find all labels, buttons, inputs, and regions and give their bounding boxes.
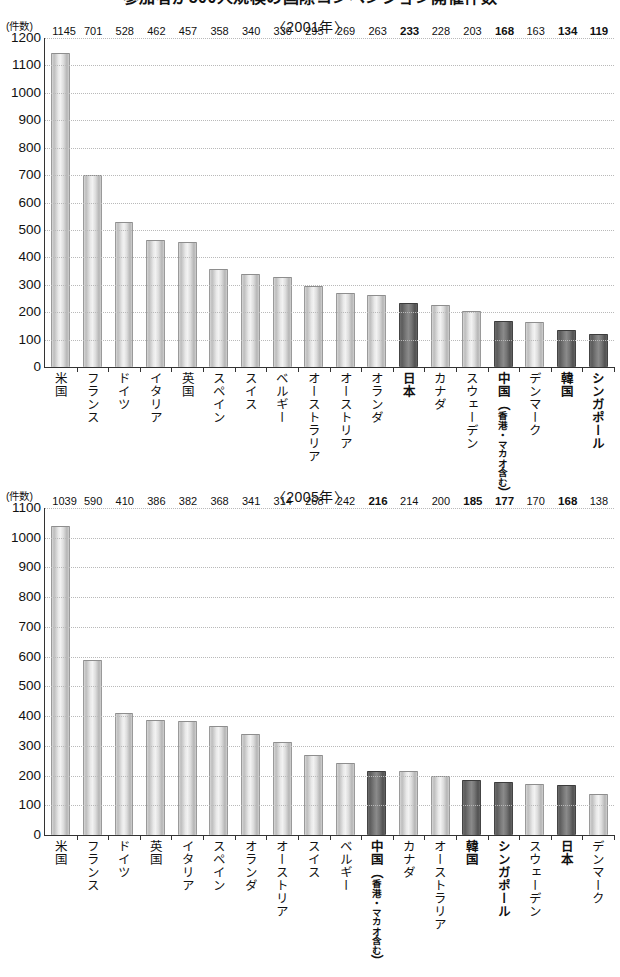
x-axis-category-label: スウェーデン	[464, 372, 477, 450]
bar-value-label: 1145	[52, 26, 76, 37]
bar-slot[interactable]: 1039	[51, 508, 70, 835]
bar-value-label: 200	[432, 496, 450, 507]
x-axis-category-label: デンマーク	[590, 840, 603, 905]
bar[interactable]: 1039	[51, 526, 70, 835]
bar-highlighted[interactable]: 168	[557, 785, 576, 835]
bar-slot[interactable]: 410	[115, 508, 134, 835]
x-axis-category-label: スイス	[306, 840, 319, 879]
bar-slot[interactable]: 341	[241, 508, 260, 835]
bar[interactable]: 170	[525, 784, 544, 835]
y-axis-tick-label: 400	[18, 709, 41, 723]
bar-value-label: 528	[116, 26, 134, 37]
x-axis-category-label: スペイン	[211, 372, 224, 424]
bar-slot[interactable]: 268	[304, 508, 323, 835]
bar-slot[interactable]: 170	[525, 508, 544, 835]
bar[interactable]: 410	[115, 713, 134, 835]
bar-slot[interactable]: 168	[557, 508, 576, 835]
bar-slot[interactable]: 590	[83, 508, 102, 835]
bar[interactable]: 295	[304, 286, 323, 367]
bar[interactable]: 457	[178, 242, 197, 367]
y-axis-tick-label: 900	[18, 114, 41, 128]
y-axis-tick-label: 1100	[12, 501, 41, 515]
x-axis-category-label: デンマーク	[527, 372, 540, 437]
bar[interactable]: 701	[83, 175, 102, 367]
bar[interactable]: 163	[525, 322, 544, 367]
bar[interactable]: 340	[241, 274, 260, 367]
x-axis-category-label: シンガポール	[495, 840, 508, 918]
bar-slot[interactable]: 382	[178, 508, 197, 835]
bar-highlighted[interactable]: 185	[462, 780, 481, 835]
x-axis-category-label: スペイン	[211, 840, 224, 892]
gridline	[45, 65, 614, 66]
bar[interactable]: 214	[399, 771, 418, 835]
bar-slot[interactable]: 200	[431, 508, 450, 835]
bar[interactable]: 386	[146, 720, 165, 835]
bar-value-label: 185	[463, 496, 482, 507]
bar[interactable]: 263	[367, 295, 386, 367]
y-axis-tick-label: 400	[18, 251, 41, 265]
bar-slot[interactable]: 386	[146, 508, 165, 835]
y-axis-tick-label: 300	[18, 278, 41, 292]
bar-slot[interactable]: 214	[399, 508, 418, 835]
bar-slot[interactable]: 368	[209, 508, 228, 835]
bar-slot[interactable]: 138	[589, 508, 608, 835]
bar[interactable]: 138	[589, 794, 608, 835]
gridline	[45, 657, 614, 658]
bar-value-label: 701	[84, 26, 102, 37]
x-axis-category-label: 日本	[559, 840, 572, 866]
gridline	[45, 285, 614, 286]
x-axis-category-label: フランス	[84, 372, 97, 424]
bar[interactable]: 1145	[51, 53, 70, 367]
bar[interactable]: 358	[209, 269, 228, 367]
bar[interactable]: 382	[178, 721, 197, 835]
bar[interactable]: 330	[273, 277, 292, 367]
gridline	[45, 120, 614, 121]
bar-slot[interactable]: 177	[494, 508, 513, 835]
gridline	[45, 567, 614, 568]
bar-slot[interactable]: 242	[336, 508, 355, 835]
bar-highlighted[interactable]: 168	[494, 321, 513, 367]
y-axis-tick-label: 1100	[12, 59, 41, 73]
bar[interactable]: 268	[304, 755, 323, 835]
bar-value-label: 368	[210, 496, 228, 507]
x-axis-category-label: ベルギー	[337, 840, 350, 892]
bar-value-label: 233	[400, 26, 419, 37]
bar[interactable]: 269	[336, 293, 355, 367]
bar[interactable]: 462	[146, 240, 165, 367]
bar-value-label: 134	[558, 26, 577, 37]
x-axis-category-label: カナダ	[401, 840, 414, 879]
gridline	[45, 175, 614, 176]
bar-slot[interactable]: 185	[462, 508, 481, 835]
gridline	[45, 312, 614, 313]
bar[interactable]: 368	[209, 726, 228, 835]
x-axis-category-label: 米国	[53, 840, 66, 866]
bar[interactable]: 528	[115, 222, 134, 367]
y-axis-tick-label: 500	[18, 223, 41, 237]
bar-slot[interactable]: 314	[273, 508, 292, 835]
bar-slot[interactable]: 216	[367, 508, 386, 835]
y-axis-tick-label: 1000	[11, 86, 41, 100]
bar-value-label: 330	[274, 26, 292, 37]
bar[interactable]: 242	[336, 763, 355, 835]
bar-value-label: 119	[590, 26, 609, 37]
y-axis-tick-label: 800	[18, 590, 41, 604]
x-axis-category-label: フランス	[84, 840, 97, 892]
gridline	[45, 148, 614, 149]
bar-highlighted[interactable]: 134	[557, 330, 576, 367]
gridline	[45, 340, 614, 341]
x-axis-tick	[614, 835, 615, 840]
gridline	[45, 746, 614, 747]
bar-highlighted[interactable]: 177	[494, 782, 513, 835]
x-axis-category-label: シンガポール	[590, 372, 603, 450]
x-axis-category-label: カナダ	[432, 372, 445, 411]
bar[interactable]: 314	[273, 742, 292, 835]
gridline	[45, 597, 614, 598]
bar-highlighted[interactable]: 216	[367, 771, 386, 835]
bar[interactable]: 228	[431, 305, 450, 368]
chart-2001-plot-area: 1145701528462457358340330295269263233228…	[44, 38, 614, 368]
x-axis-tick	[614, 367, 615, 372]
bar[interactable]: 341	[241, 734, 260, 835]
bar-value-label: 138	[590, 496, 608, 507]
y-axis-tick-label: 200	[18, 305, 41, 319]
bar-value-label: 457	[179, 26, 197, 37]
